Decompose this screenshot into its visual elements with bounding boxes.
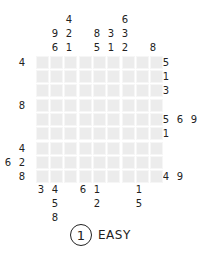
left-clue: 6 [1, 156, 15, 170]
grid-cell[interactable] [64, 99, 77, 112]
grid-cell[interactable] [36, 99, 49, 112]
grid-cell[interactable] [122, 170, 135, 183]
grid-cell[interactable] [107, 170, 120, 183]
grid-cell[interactable] [50, 99, 63, 112]
grid-cell[interactable] [107, 142, 120, 155]
grid-cell[interactable] [122, 113, 135, 126]
grid-cell[interactable] [79, 156, 92, 169]
grid-cell[interactable] [93, 127, 106, 140]
grid-cell[interactable] [107, 84, 120, 97]
top-clue: 2 [62, 27, 76, 41]
grid-cell[interactable] [79, 113, 92, 126]
grid-cell[interactable] [79, 99, 92, 112]
grid-cell[interactable] [64, 127, 77, 140]
grid-cell[interactable] [93, 84, 106, 97]
top-clue: 8 [90, 27, 104, 41]
grid-cell[interactable] [122, 84, 135, 97]
top-clue: 2 [118, 41, 132, 55]
top-clue: 6 [118, 13, 132, 27]
grid-cell[interactable] [79, 70, 92, 83]
grid-cell[interactable] [50, 170, 63, 183]
grid-cell[interactable] [50, 142, 63, 155]
grid-cell[interactable] [136, 156, 149, 169]
bottom-clue: 1 [90, 183, 104, 197]
top-clue: 5 [90, 41, 104, 55]
left-clue: 4 [15, 142, 29, 156]
grid-cell[interactable] [150, 70, 163, 83]
grid-cell[interactable] [93, 99, 106, 112]
grid-cell[interactable] [79, 170, 92, 183]
grid-cell[interactable] [36, 113, 49, 126]
grid-cell[interactable] [150, 56, 163, 69]
level-number-badge: 1 [70, 224, 92, 246]
grid-cell[interactable] [107, 70, 120, 83]
grid-cell[interactable] [122, 56, 135, 69]
grid-cell[interactable] [36, 56, 49, 69]
grid-cell[interactable] [122, 127, 135, 140]
bottom-clue: 5 [132, 197, 146, 211]
grid-cell[interactable] [136, 127, 149, 140]
grid-cell[interactable] [36, 170, 49, 183]
grid-cell[interactable] [50, 70, 63, 83]
grid-cell[interactable] [136, 142, 149, 155]
grid-cell[interactable] [36, 70, 49, 83]
grid-cell[interactable] [79, 142, 92, 155]
grid-cell[interactable] [150, 156, 163, 169]
top-clue: 8 [146, 41, 160, 55]
grid-cell[interactable] [136, 56, 149, 69]
top-clue: 9 [48, 27, 62, 41]
grid-cell[interactable] [50, 84, 63, 97]
grid-cell[interactable] [50, 56, 63, 69]
grid-cell[interactable] [36, 84, 49, 97]
puzzle-grid[interactable] [36, 56, 161, 181]
grid-cell[interactable] [107, 113, 120, 126]
grid-cell[interactable] [122, 156, 135, 169]
grid-cell[interactable] [64, 56, 77, 69]
grid-cell[interactable] [107, 156, 120, 169]
grid-cell[interactable] [50, 127, 63, 140]
grid-cell[interactable] [93, 113, 106, 126]
grid-cell[interactable] [79, 127, 92, 140]
grid-cell[interactable] [93, 70, 106, 83]
grid-cell[interactable] [150, 99, 163, 112]
grid-cell[interactable] [93, 142, 106, 155]
grid-cell[interactable] [136, 99, 149, 112]
grid-cell[interactable] [136, 70, 149, 83]
grid-cell[interactable] [122, 99, 135, 112]
difficulty-label: EASY [98, 228, 131, 242]
grid-cell[interactable] [136, 113, 149, 126]
grid-cell[interactable] [79, 84, 92, 97]
grid-cell[interactable] [64, 84, 77, 97]
grid-cell[interactable] [64, 70, 77, 83]
grid-cell[interactable] [150, 170, 163, 183]
grid-cell[interactable] [150, 84, 163, 97]
grid-cell[interactable] [50, 156, 63, 169]
grid-cell[interactable] [64, 142, 77, 155]
grid-cell[interactable] [122, 142, 135, 155]
grid-cell[interactable] [107, 127, 120, 140]
grid-cell[interactable] [150, 113, 163, 126]
bottom-clue: 8 [48, 211, 62, 225]
grid-cell[interactable] [64, 156, 77, 169]
grid-cell[interactable] [36, 142, 49, 155]
grid-cell[interactable] [64, 113, 77, 126]
grid-cell[interactable] [50, 113, 63, 126]
grid-cell[interactable] [79, 56, 92, 69]
bottom-clue: 2 [90, 197, 104, 211]
grid-cell[interactable] [93, 56, 106, 69]
bottom-clue: 3 [34, 183, 48, 197]
grid-cell[interactable] [150, 127, 163, 140]
grid-cell[interactable] [150, 142, 163, 155]
grid-cell[interactable] [36, 127, 49, 140]
grid-cell[interactable] [136, 84, 149, 97]
grid-cell[interactable] [107, 99, 120, 112]
grid-cell[interactable] [93, 156, 106, 169]
grid-cell[interactable] [136, 170, 149, 183]
grid-cell[interactable] [36, 156, 49, 169]
grid-cell[interactable] [93, 170, 106, 183]
grid-cell[interactable] [122, 70, 135, 83]
bottom-clue: 1 [132, 183, 146, 197]
grid-cell[interactable] [107, 56, 120, 69]
grid-cell[interactable] [64, 170, 77, 183]
top-clue: 4 [62, 13, 76, 27]
